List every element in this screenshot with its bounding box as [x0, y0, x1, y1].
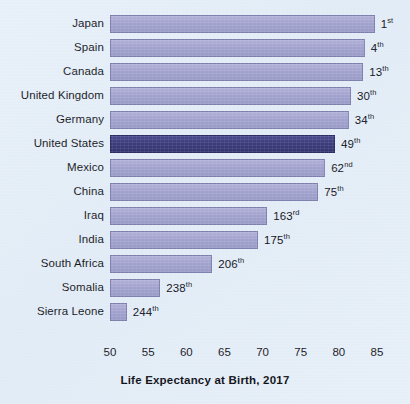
- category-label-mexico: Mexico: [67, 158, 104, 177]
- bar-row: Somalia238th: [0, 278, 410, 302]
- bar-south-africa: [110, 255, 212, 273]
- x-tick-label-60: 60: [166, 346, 206, 358]
- category-label-japan: Japan: [72, 14, 104, 33]
- rank-suffix: th: [152, 304, 158, 313]
- rank-suffix: th: [377, 40, 383, 49]
- rank-number: 75: [324, 186, 337, 198]
- rank-number: 13: [369, 66, 382, 78]
- rank-suffix: th: [354, 136, 360, 145]
- category-label-india: India: [79, 230, 104, 249]
- rank-suffix: th: [186, 280, 192, 289]
- rank-suffix: th: [238, 256, 244, 265]
- category-label-spain: Spain: [74, 38, 104, 57]
- rank-suffix: rd: [293, 208, 300, 217]
- life-expectancy-bar-chart: Japan1stSpain4thCanada13thUnited Kingdom…: [0, 0, 410, 404]
- x-tick-label-85: 85: [357, 346, 397, 358]
- rank-suffix: th: [283, 232, 289, 241]
- category-label-somalia: Somalia: [62, 278, 104, 297]
- bar-mexico: [110, 159, 325, 177]
- bar-japan: [110, 15, 375, 33]
- bar-row: Germany34th: [0, 110, 410, 134]
- rank-number: 62: [331, 162, 344, 174]
- bar-row: India175th: [0, 230, 410, 254]
- rank-label-canada: 13th: [369, 63, 388, 81]
- rank-label-somalia: 238th: [166, 279, 192, 297]
- bar-row: Spain4th: [0, 38, 410, 62]
- x-tick-label-70: 70: [243, 346, 283, 358]
- x-tick-label-75: 75: [281, 346, 321, 358]
- rank-number: 34: [355, 114, 368, 126]
- rank-number: 30: [357, 90, 370, 102]
- plot-area: Japan1stSpain4thCanada13thUnited Kingdom…: [0, 0, 410, 404]
- bar-china: [110, 183, 318, 201]
- category-label-china: China: [73, 182, 104, 201]
- x-tick-label-55: 55: [128, 346, 168, 358]
- rank-label-germany: 34th: [355, 111, 374, 129]
- rank-number: 175: [264, 234, 284, 246]
- rank-label-south-africa: 206th: [218, 255, 244, 273]
- bar-somalia: [110, 279, 160, 297]
- bar-row: Mexico62nd: [0, 158, 410, 182]
- x-tick-label-80: 80: [319, 346, 359, 358]
- rank-label-china: 75th: [324, 183, 343, 201]
- rank-number: 244: [133, 306, 153, 318]
- bar-canada: [110, 63, 363, 81]
- bar-india: [110, 231, 258, 249]
- bar-row: China75th: [0, 182, 410, 206]
- rank-label-united-kingdom: 30th: [357, 87, 376, 105]
- bar-spain: [110, 39, 365, 57]
- category-label-iraq: Iraq: [84, 206, 104, 225]
- bar-iraq: [110, 207, 267, 225]
- rank-suffix: st: [387, 16, 393, 25]
- chart-title: Life Expectancy at Birth, 2017: [0, 374, 410, 386]
- rank-suffix: th: [370, 88, 376, 97]
- bar-row: Canada13th: [0, 62, 410, 86]
- rank-suffix: th: [382, 64, 388, 73]
- category-label-germany: Germany: [56, 110, 104, 129]
- bar-row: Japan1st: [0, 14, 410, 38]
- rank-number: 49: [341, 138, 354, 150]
- rank-suffix: th: [337, 184, 343, 193]
- rank-number: 238: [166, 282, 186, 294]
- rank-label-mexico: 62nd: [331, 159, 353, 177]
- bar-united-states: [110, 135, 335, 153]
- bar-row: Iraq163rd: [0, 206, 410, 230]
- bar-united-kingdom: [110, 87, 351, 105]
- x-axis: 5055606570758085: [0, 346, 410, 364]
- category-label-united-states: United States: [34, 134, 104, 153]
- bar-germany: [110, 111, 349, 129]
- bar-row: South Africa206th: [0, 254, 410, 278]
- rank-label-united-states: 49th: [341, 135, 360, 153]
- rank-label-sierra-leone: 244th: [133, 303, 159, 321]
- category-label-south-africa: South Africa: [41, 254, 104, 273]
- rank-number: 163: [273, 210, 293, 222]
- rank-suffix: th: [368, 112, 374, 121]
- x-tick-label-50: 50: [90, 346, 130, 358]
- rank-label-japan: 1st: [381, 15, 394, 33]
- category-label-united-kingdom: United Kingdom: [21, 86, 104, 105]
- rank-suffix: nd: [344, 160, 353, 169]
- bar-row: Sierra Leone244th: [0, 302, 410, 326]
- rank-label-india: 175th: [264, 231, 290, 249]
- rank-number: 206: [218, 258, 238, 270]
- x-tick-label-65: 65: [204, 346, 244, 358]
- bar-row: United Kingdom30th: [0, 86, 410, 110]
- category-label-canada: Canada: [63, 62, 104, 81]
- rank-label-spain: 4th: [371, 39, 384, 57]
- bar-sierra-leone: [110, 303, 127, 321]
- bar-row: United States49th: [0, 134, 410, 158]
- rank-label-iraq: 163rd: [273, 207, 299, 225]
- category-label-sierra-leone: Sierra Leone: [37, 302, 104, 321]
